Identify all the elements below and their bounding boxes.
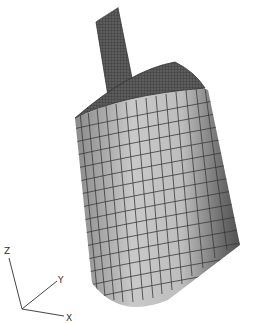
axes-triad — [9, 258, 64, 316]
y-axis-label: Y — [57, 275, 64, 285]
y-axis-line — [22, 281, 57, 309]
x-axis-label: X — [66, 313, 72, 323]
z-axis-label: Z — [4, 246, 10, 256]
cylinder-body — [60, 84, 255, 307]
mesh-render: Z Y X — [0, 0, 255, 323]
mesh-viewport[interactable]: Z Y X — [0, 0, 255, 323]
x-axis-line — [22, 309, 64, 316]
z-axis-line — [9, 258, 22, 309]
